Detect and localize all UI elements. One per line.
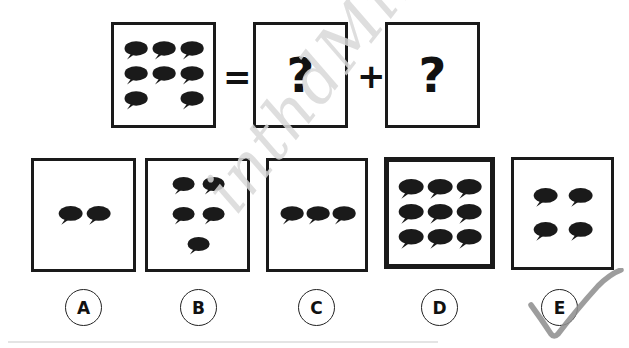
- speech-bubble-icon: [567, 221, 593, 241]
- speech-bubble-icon: [151, 40, 176, 60]
- speech-bubble-icon: [179, 65, 204, 85]
- speech-bubble-icon: [201, 206, 225, 225]
- bubble-row: [532, 221, 593, 241]
- option-letter-b[interactable]: B: [180, 289, 217, 326]
- bubble-row: [171, 206, 225, 225]
- question-mark-1: ?: [256, 25, 345, 125]
- option-box-e[interactable]: [511, 157, 614, 270]
- bubble-row: [123, 65, 204, 85]
- speech-bubble-icon: [426, 178, 453, 199]
- speech-bubble-icon: [331, 205, 356, 225]
- option-letter-e-text: E: [554, 298, 566, 318]
- speech-bubble-icon: [397, 203, 424, 224]
- bubble-row: [57, 205, 111, 225]
- question-mark-2: ?: [388, 25, 477, 125]
- unknown-panel-1: ?: [253, 22, 348, 128]
- option-letter-c[interactable]: C: [298, 289, 335, 326]
- speech-bubble-icon: [201, 176, 225, 195]
- equals-operator: =: [223, 60, 252, 94]
- bubble-row: [397, 203, 482, 224]
- bubble-row: [186, 236, 210, 255]
- bottom-divider: [8, 341, 438, 343]
- bubble-row: [397, 228, 482, 249]
- speech-bubble-icon: [532, 187, 558, 207]
- speech-bubble-icon: [532, 221, 558, 241]
- option-box-a[interactable]: [31, 158, 136, 272]
- speech-bubble-icon: [57, 205, 83, 225]
- speech-bubble-icon: [123, 40, 148, 60]
- bubble-row: [123, 40, 204, 60]
- speech-bubble-icon: [455, 203, 482, 224]
- speech-bubble-icon: [455, 178, 482, 199]
- speech-bubble-icon: [279, 205, 304, 225]
- plus-operator: +: [357, 59, 386, 93]
- option-letter-c-text: C: [310, 298, 322, 318]
- option-letter-d[interactable]: D: [421, 289, 458, 326]
- unknown-panel-2: ?: [385, 22, 480, 128]
- speech-bubble-icon: [85, 205, 111, 225]
- option-a-bubbles: [34, 161, 133, 269]
- bubble-row: [532, 187, 593, 207]
- puzzle-canvas: inthdMindMine = ? + ? A B C D: [0, 0, 629, 348]
- speech-bubble-icon: [305, 205, 330, 225]
- speech-bubble-icon: [426, 228, 453, 249]
- option-e-bubbles: [514, 160, 611, 267]
- bubble-spacer: [151, 90, 176, 110]
- speech-bubble-icon: [567, 187, 593, 207]
- speech-bubble-icon: [151, 65, 176, 85]
- bubble-row: [123, 90, 204, 110]
- given-panel: [111, 22, 216, 128]
- bubble-row: [397, 178, 482, 199]
- option-d-bubbles: [389, 162, 490, 264]
- option-letter-a-text: A: [77, 298, 90, 318]
- speech-bubble-icon: [186, 236, 210, 255]
- option-box-c[interactable]: [266, 158, 368, 272]
- speech-bubble-icon: [426, 203, 453, 224]
- speech-bubble-icon: [179, 90, 204, 110]
- speech-bubble-icon: [179, 40, 204, 60]
- speech-bubble-icon: [123, 65, 148, 85]
- speech-bubble-icon: [171, 176, 195, 195]
- option-letter-b-text: B: [192, 298, 205, 318]
- speech-bubble-icon: [397, 178, 424, 199]
- option-letter-a[interactable]: A: [65, 289, 102, 326]
- bubble-row: [171, 176, 225, 195]
- bubble-row: [279, 205, 356, 225]
- speech-bubble-icon: [123, 90, 148, 110]
- option-c-bubbles: [269, 161, 365, 269]
- option-b-bubbles: [148, 161, 247, 269]
- speech-bubble-icon: [397, 228, 424, 249]
- given-panel-bubbles: [114, 25, 213, 125]
- option-letter-e[interactable]: E: [541, 289, 578, 326]
- option-box-d[interactable]: [384, 157, 495, 269]
- option-letter-d-text: D: [432, 298, 446, 318]
- speech-bubble-icon: [455, 228, 482, 249]
- option-box-b[interactable]: [145, 158, 250, 272]
- speech-bubble-icon: [171, 206, 195, 225]
